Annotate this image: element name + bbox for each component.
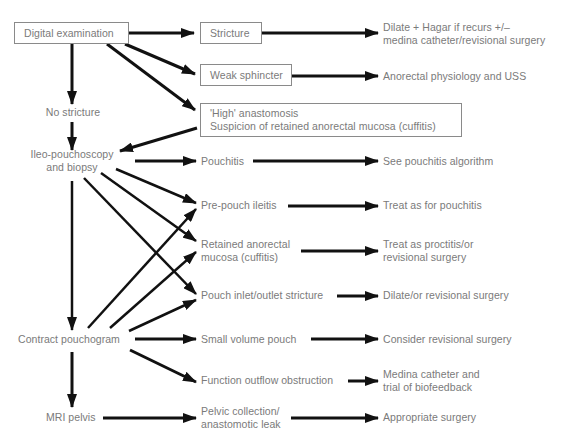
node-small-volume-pouch: Small volume pouch [201, 333, 296, 346]
node-prepouch-ileitis: Pre-pouch ileitis [201, 199, 277, 212]
outcome-prepouch-ileitis: Treat as for pouchitis [383, 199, 482, 212]
outcome-pouchitis: See pouchitis algorithm [383, 155, 493, 168]
node-stricture: Stricture [200, 22, 262, 44]
flowchart: Digital examination Stricture Weak sphin… [0, 0, 561, 441]
outcome-inlet-outlet-stricture: Dilate/or revisional surgery [383, 289, 509, 302]
arrow-digital-to-weak-sphincter [125, 44, 195, 74]
outcome-weak-sphincter: Anorectal physiology and USS [383, 70, 526, 83]
arrow-pouchogram-to-inlet [129, 300, 196, 331]
node-retained-mucosa: Retained anorectal mucosa (cuffitis) [201, 238, 290, 264]
arrow-high-to-ileo [120, 128, 197, 151]
outcome-pelvic-collection: Appropriate surgery [383, 411, 476, 424]
arrow-pouchogram-to-prepouch [88, 209, 196, 328]
outcome-stricture: Dilate + Hagar if recurs +/– medina cath… [383, 21, 545, 47]
node-pouchitis: Pouchitis [201, 155, 244, 168]
node-high-anastomosis: 'High' anastomosis Suspicion of retained… [200, 103, 462, 137]
node-inlet-outlet-stricture: Pouch inlet/outlet stricture [201, 289, 323, 302]
arrow-pouchogram-to-outflow [130, 350, 196, 382]
node-no-stricture: No stricture [40, 106, 106, 119]
outcome-small-volume-pouch: Consider revisional surgery [383, 333, 512, 346]
node-contrast-pouchogram: Contract pouchogram [18, 333, 120, 346]
arrow-ileo-to-prepouch [116, 169, 196, 203]
node-weak-sphincter: Weak sphincter [200, 64, 292, 86]
node-mri-pelvis: MRI pelvis [46, 411, 96, 424]
outcome-retained-mucosa: Treat as proctitis/or revisional surgery [383, 238, 474, 264]
outcome-outflow-obstruction: Medina catheter and trial of biofeedback [383, 368, 480, 394]
node-digital-examination: Digital examination [14, 22, 129, 44]
node-outflow-obstruction: Function outflow obstruction [201, 374, 333, 387]
node-pelvic-collection: Pelvic collection/ anastomotic leak [201, 405, 281, 431]
node-ileo-pouchoscopy: Ileo-pouchoscopy and biopsy [22, 148, 122, 174]
